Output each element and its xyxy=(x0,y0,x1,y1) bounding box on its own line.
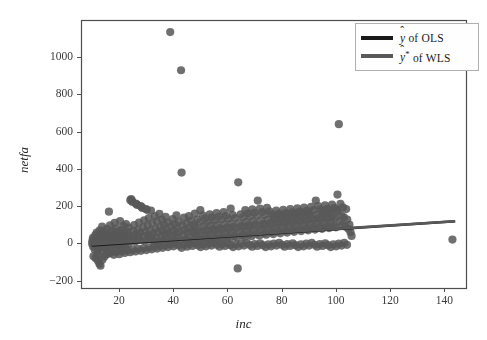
x-tick-label: 20 xyxy=(99,294,139,306)
legend-label-ols: y of OLS xyxy=(400,32,444,44)
x-tick-label: 120 xyxy=(370,294,410,306)
y-tick-label: 600 xyxy=(29,125,73,137)
legend-swatch-wls xyxy=(361,54,393,58)
legend-item-wls: y* of WLS xyxy=(361,47,472,65)
y-tick-label: 200 xyxy=(29,199,73,211)
x-tick-label: 100 xyxy=(316,294,356,306)
figure-container: netfa inc 10008006004002000−200 20406080… xyxy=(0,0,487,340)
x-tick-label: 140 xyxy=(424,294,464,306)
legend-swatch-ols xyxy=(361,36,393,40)
legend-label-wls: y* of WLS xyxy=(400,49,451,64)
x-tick-label: 40 xyxy=(153,294,193,306)
y-tick-label: 400 xyxy=(29,162,73,174)
legend-item-ols: y of OLS xyxy=(361,29,472,47)
legend: y of OLS y* of WLS xyxy=(355,23,479,71)
y-tick-label: −200 xyxy=(29,274,73,286)
y-tick-label: 800 xyxy=(29,87,73,99)
y-tick-label: 1000 xyxy=(29,50,73,62)
x-tick-label: 60 xyxy=(207,294,247,306)
y-tick-label: 0 xyxy=(29,236,73,248)
x-tick-label: 80 xyxy=(262,294,302,306)
x-axis-label: inc xyxy=(0,316,487,332)
